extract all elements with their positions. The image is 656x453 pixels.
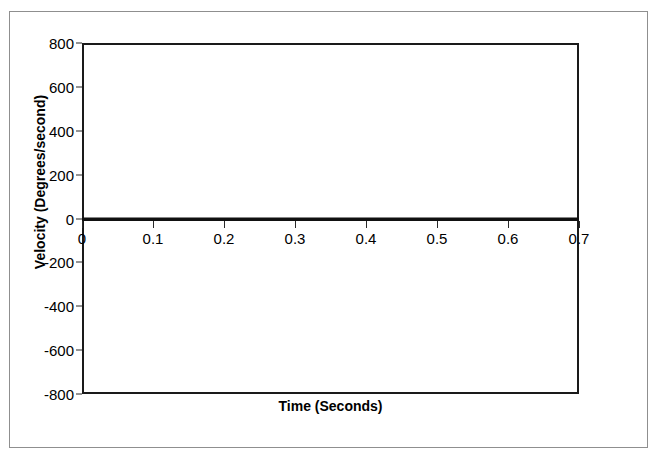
x-axis-title: Time (Seconds) — [82, 398, 579, 414]
x-tick-mark — [579, 221, 580, 228]
y-tick-label: -400 — [44, 298, 74, 315]
y-tick-label: 400 — [49, 122, 74, 139]
figure-frame: 8006004002000-200-400-600-800 00.10.20.3… — [9, 11, 648, 448]
y-tick-label: 600 — [49, 78, 74, 95]
series-layer — [82, 43, 579, 394]
y-tick-label: -600 — [44, 342, 74, 359]
y-tick-label: -800 — [44, 386, 74, 403]
y-tick-label: -200 — [44, 254, 74, 271]
y-tick-label: 0 — [66, 210, 74, 227]
y-axis-title: Velocity (Degrees/second) — [32, 2, 48, 362]
clipped-header-text: Incidence — [11, 0, 55, 1]
y-tick-label: 200 — [49, 166, 74, 183]
chart-canvas: 8006004002000-200-400-600-800 00.10.20.3… — [10, 12, 649, 449]
y-tick-label: 800 — [49, 35, 74, 52]
